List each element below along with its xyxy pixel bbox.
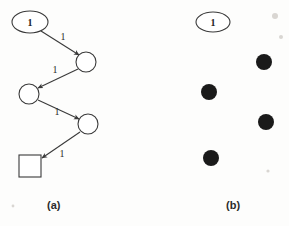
scan-speck <box>272 13 278 19</box>
edge-label-n3-n4: 1 <box>55 106 60 117</box>
panel-a-nodes: 1 <box>12 11 98 177</box>
edge-n2-n3 <box>38 69 78 88</box>
node-n1-label: 1 <box>28 17 33 28</box>
node-m4-dot <box>258 114 274 130</box>
edge-label-n4-n5: 1 <box>60 148 65 159</box>
scan-speck-group <box>12 13 283 207</box>
node-n5-square <box>19 155 41 177</box>
figure-container: 1 1 1 1 1 1 (a) (b) <box>0 0 289 226</box>
panel-a-edges <box>38 31 80 158</box>
node-n3-circle <box>19 84 39 104</box>
scan-speck <box>279 35 283 39</box>
node-m5-dot <box>203 150 219 166</box>
panel-a: 1 1 1 1 1 <box>12 11 98 177</box>
node-m2-dot <box>256 54 272 70</box>
figure-canvas: 1 1 1 1 1 1 <box>0 0 289 226</box>
scan-speck <box>266 169 269 172</box>
panel-a-edge-labels: 1 1 1 1 <box>53 31 66 159</box>
node-m3-dot <box>201 84 217 100</box>
panel-b-caption: (b) <box>226 199 240 211</box>
node-n4-circle <box>78 114 98 134</box>
node-n2-circle <box>76 52 96 72</box>
node-m1-label: 1 <box>211 17 216 28</box>
panel-b: 1 <box>196 12 274 166</box>
edge-label-n1-n2: 1 <box>61 31 66 42</box>
edge-label-n2-n3: 1 <box>53 64 58 75</box>
scan-speck <box>12 205 15 208</box>
panel-a-caption: (a) <box>47 199 60 211</box>
